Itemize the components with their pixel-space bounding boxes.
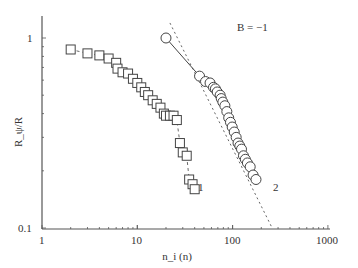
x-tick-label-100: 100 xyxy=(224,234,241,246)
log-log-chart: 1 0.1 1 10 100 1000 n_i (n) R_ψ/R B = −1… xyxy=(0,0,358,268)
series-1-point xyxy=(175,139,184,148)
axes xyxy=(42,16,330,229)
series-1-point xyxy=(182,151,191,160)
x-axis-label: n_i (n) xyxy=(162,250,192,263)
series-2-circles xyxy=(161,33,261,184)
series-1-point xyxy=(95,51,104,60)
slope-annotation: B = −1 xyxy=(237,21,268,33)
x-tick-label-1000: 1000 xyxy=(316,234,339,246)
series-2-point xyxy=(251,174,261,184)
series-1-point xyxy=(83,49,92,58)
series-1-squares xyxy=(66,45,199,194)
series-1-point xyxy=(66,45,75,54)
y-tick-label-1: 1 xyxy=(27,32,33,44)
series-1-label: 1 xyxy=(198,181,204,193)
slope-reference-line xyxy=(170,23,272,228)
y-tick-label-0.1: 0.1 xyxy=(18,222,32,234)
y-axis-label: R_ψ/R xyxy=(12,116,24,147)
series-2-label: 2 xyxy=(273,181,279,193)
series-2-point xyxy=(161,33,171,43)
x-tick-label-10: 10 xyxy=(131,234,143,246)
x-tick-label-1: 1 xyxy=(39,234,45,246)
series-1-point xyxy=(172,116,181,125)
